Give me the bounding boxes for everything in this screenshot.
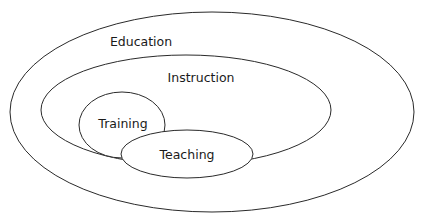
nested-sets-diagram: Education Instruction Training Teaching <box>0 0 422 221</box>
instruction-label: Instruction <box>168 70 235 85</box>
training-label: Training <box>97 116 147 131</box>
education-label: Education <box>110 34 172 49</box>
teaching-label: Teaching <box>159 147 215 162</box>
